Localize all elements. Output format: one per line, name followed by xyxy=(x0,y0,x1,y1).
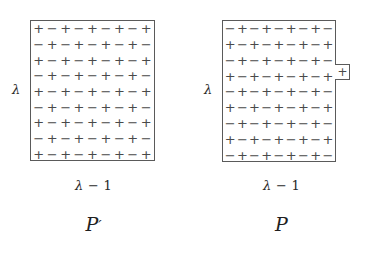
minus-sign: − xyxy=(310,101,322,114)
minus-sign: − xyxy=(72,22,85,35)
minus-sign: − xyxy=(261,101,273,114)
plus-sign: + xyxy=(126,132,139,145)
lambda-side-label-right: λ xyxy=(204,82,212,97)
protrusion-cell: + xyxy=(336,64,350,80)
plus-sign: + xyxy=(248,70,260,83)
plus-sign: + xyxy=(273,133,285,146)
minus-sign: − xyxy=(99,85,112,98)
plus-sign: + xyxy=(310,85,322,98)
minus-sign: − xyxy=(45,116,58,129)
sign-row: +−+−+−+−+ xyxy=(223,37,335,53)
sign-row: +−+−+−+−+ xyxy=(31,146,154,162)
minus-sign: − xyxy=(297,149,309,162)
sign-row: −+−+−+−+− xyxy=(31,37,154,53)
plus-sign: + xyxy=(322,133,334,146)
sign-row: −+−+−+−+− xyxy=(223,84,335,100)
panel-p: λ −+−+−+−+−+−+−+−+−+−+−+−+−+−+−+−+−+−+−+… xyxy=(188,0,375,253)
minus-sign: − xyxy=(224,22,236,35)
plus-sign: + xyxy=(273,101,285,114)
plus-sign: + xyxy=(113,148,126,161)
plus-sign: + xyxy=(248,101,260,114)
plus-sign: + xyxy=(140,85,153,98)
minus-sign: − xyxy=(285,70,297,83)
plus-sign: + xyxy=(236,22,248,35)
plus-sign: + xyxy=(59,116,72,129)
plus-sign: + xyxy=(261,149,273,162)
minus-sign: − xyxy=(86,38,99,51)
minus-sign: − xyxy=(236,101,248,114)
minus-sign: − xyxy=(32,38,45,51)
grid-wrap-left: +−+−+−+−+−+−+−+−+−+−+−+−+−+−+−+−+−+−+−+−… xyxy=(30,20,155,161)
minus-sign: − xyxy=(59,38,72,51)
minus-sign: − xyxy=(322,117,334,130)
plus-sign: + xyxy=(297,70,309,83)
plus-sign: + xyxy=(285,149,297,162)
minus-sign: − xyxy=(99,116,112,129)
plus-sign: + xyxy=(261,54,273,67)
plus-sign: + xyxy=(224,101,236,114)
minus-sign: − xyxy=(126,22,139,35)
plus-sign: + xyxy=(99,101,112,114)
minus-sign: − xyxy=(236,38,248,51)
sign-row: +−+−+−+−+ xyxy=(31,84,154,100)
plus-sign: + xyxy=(32,85,45,98)
plus-sign: + xyxy=(236,54,248,67)
sign-row: −+−+−+−+− xyxy=(223,53,335,69)
minus-sign: − xyxy=(59,69,72,82)
minus-sign: − xyxy=(273,54,285,67)
lambda-side-label-left: λ xyxy=(12,82,20,97)
minus-sign: − xyxy=(273,22,285,35)
plus-sign: + xyxy=(285,54,297,67)
plus-sign: + xyxy=(310,22,322,35)
minus-sign: − xyxy=(322,149,334,162)
minus-sign: − xyxy=(224,54,236,67)
plus-sign: + xyxy=(224,38,236,51)
plus-sign: + xyxy=(32,22,45,35)
minus-sign: − xyxy=(297,85,309,98)
minus-sign: − xyxy=(310,70,322,83)
minus-sign: − xyxy=(248,54,260,67)
minus-sign: − xyxy=(45,54,58,67)
plus-sign: + xyxy=(248,133,260,146)
polygon-name-p-prime: P′ xyxy=(0,213,187,235)
plus-sign: + xyxy=(32,54,45,67)
minus-sign: − xyxy=(224,117,236,130)
minus-sign: − xyxy=(310,38,322,51)
minus-sign: − xyxy=(322,54,334,67)
sign-row: +−+−+−+−+ xyxy=(223,100,335,116)
plus-sign: + xyxy=(297,101,309,114)
plus-sign: + xyxy=(45,38,58,51)
plus-sign: + xyxy=(45,132,58,145)
plus-sign: + xyxy=(224,70,236,83)
plus-sign: + xyxy=(113,116,126,129)
plus-sign: + xyxy=(126,69,139,82)
minus-sign: − xyxy=(224,149,236,162)
plus-sign: + xyxy=(310,117,322,130)
minus-sign: − xyxy=(261,70,273,83)
plus-sign: + xyxy=(99,38,112,51)
minus-sign: − xyxy=(140,101,153,114)
minus-sign: − xyxy=(113,69,126,82)
sign-row: −+−+−+−+− xyxy=(31,131,154,147)
minus-sign: − xyxy=(322,85,334,98)
minus-sign: − xyxy=(72,116,85,129)
minus-sign: − xyxy=(236,70,248,83)
sign-row: +−+−+−+−+ xyxy=(223,131,335,147)
plus-sign: + xyxy=(297,133,309,146)
minus-sign: − xyxy=(72,54,85,67)
sign-row: −+−+−+−+− xyxy=(31,99,154,115)
plus-sign: + xyxy=(236,117,248,130)
plus-sign: + xyxy=(297,38,309,51)
minus-sign: − xyxy=(236,133,248,146)
sign-row: +−+−+−+−+ xyxy=(31,52,154,68)
plus-sign: + xyxy=(140,54,153,67)
plus-sign: + xyxy=(86,148,99,161)
plus-sign: + xyxy=(99,69,112,82)
plus-sign: + xyxy=(32,148,45,161)
prime-glyph-left: ′ xyxy=(98,217,101,235)
plus-sign: + xyxy=(72,69,85,82)
minus-sign: − xyxy=(72,85,85,98)
minus-sign: − xyxy=(45,22,58,35)
script-p-glyph-right: P xyxy=(275,213,288,235)
minus-sign: − xyxy=(32,69,45,82)
